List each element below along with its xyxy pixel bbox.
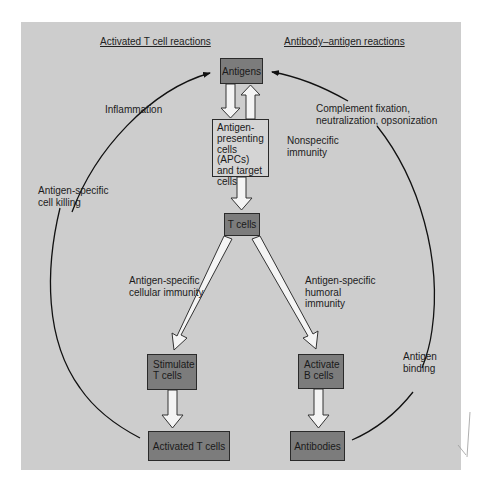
label-line: Antigen-specific <box>305 275 376 287</box>
label-complement-fixation: Complement fixation, neutralization, ops… <box>316 103 437 126</box>
label-line: neutralization, opsonization <box>316 115 437 127</box>
node-activated-t-cells-label: Activated T cells <box>153 441 225 452</box>
pencil-checkmark <box>458 412 470 457</box>
header-activated-t-cell-reactions: Activated T cell reactions <box>100 36 211 47</box>
node-apcs-line: presenting <box>217 134 268 145</box>
label-nonspecific-immunity: Nonspecific immunity <box>287 135 339 158</box>
label-line: Nonspecific <box>287 135 339 147</box>
label-line: humoral <box>305 287 376 299</box>
node-apcs-line: cells (APCs) <box>217 145 268 167</box>
arrow-stimulate-to-activated <box>162 390 183 428</box>
label-line: immunity <box>305 298 376 310</box>
header-antibody-antigen-reactions: Antibody–antigen reactions <box>284 36 405 47</box>
node-antibodies-label: Antibodies <box>294 441 341 452</box>
node-activate-line: B cells <box>304 370 343 381</box>
label-cellular-immunity: Antigen-specific cellular immunity <box>129 275 203 298</box>
label-antigen-binding: Antigen binding <box>403 351 437 374</box>
arc-right-lower <box>352 392 413 440</box>
label-antigen-specific-cell-killing: Antigen-specific cell killing <box>38 185 109 208</box>
arrow-activate-to-antibodies <box>308 389 329 428</box>
label-line: cellular immunity <box>129 287 203 299</box>
node-activated-t-cells: Activated T cells <box>148 431 230 461</box>
label-line: Antigen <box>403 351 437 363</box>
node-activate-b-cells: Activate B cells <box>298 354 344 389</box>
label-line: Complement fixation, <box>316 103 437 115</box>
label-line: immunity <box>287 147 339 159</box>
label-line: Antigen-specific <box>129 275 203 287</box>
node-antigens: Antigens <box>220 58 263 84</box>
label-line: binding <box>403 363 437 375</box>
node-t-cells-label: T cells <box>228 219 257 230</box>
node-activate-line: Activate <box>304 359 343 370</box>
label-line: Antigen-specific <box>38 185 109 197</box>
node-antibodies: Antibodies <box>290 431 345 461</box>
node-stimulate-line: Stimulate <box>153 359 196 370</box>
arc-complement <box>272 72 348 101</box>
label-inflammation: Inflammation <box>105 104 162 116</box>
arrow-antigens-to-apc <box>221 84 240 118</box>
node-apcs: Antigen- presenting cells (APCs) and tar… <box>212 119 269 177</box>
node-stimulate-t-cells: Stimulate T cells <box>147 354 197 390</box>
label-humoral-immunity: Antigen-specific humoral immunity <box>305 275 376 310</box>
node-stimulate-line: T cells <box>153 370 196 381</box>
arrow-apc-to-antigens <box>241 85 260 119</box>
node-t-cells: T cells <box>224 213 260 236</box>
arc-right-middle <box>377 126 434 368</box>
node-apcs-line: cells <box>217 177 268 188</box>
label-line: cell killing <box>38 197 109 209</box>
arc-left-lower <box>50 208 140 438</box>
node-antigens-label: Antigens <box>222 66 261 77</box>
